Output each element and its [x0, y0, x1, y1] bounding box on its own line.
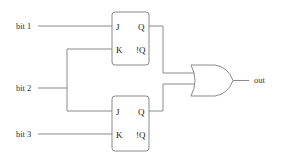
- flipflop-bottom-body: [112, 96, 149, 151]
- input-label-bit1: bit 1: [16, 21, 31, 31]
- pin-k-bottom: K: [116, 130, 123, 140]
- pin-q-bottom: Q: [138, 107, 145, 117]
- input-label-bit2: bit 2: [16, 83, 31, 93]
- flipflop-top-body: [112, 12, 149, 65]
- pin-j-top: J: [116, 22, 120, 32]
- pin-q-top: Q: [138, 22, 145, 32]
- flipflop-bottom: J K Q !Q: [112, 96, 149, 151]
- wire-bottom-q-to-or: [149, 84, 196, 111]
- or-gate-icon: [191, 65, 233, 96]
- pin-k-top: K: [116, 45, 123, 55]
- wire-top-q-to-or: [149, 26, 196, 73]
- pin-nq-top: !Q: [136, 45, 146, 55]
- input-label-bit3: bit 3: [16, 129, 31, 139]
- output-label: out: [254, 75, 266, 85]
- wire-bit2-branch: [67, 49, 112, 111]
- pin-nq-bottom: !Q: [136, 130, 146, 140]
- circuit-diagram: bit 1 bit 2 bit 3 J K Q !Q J K Q !Q out: [0, 0, 282, 159]
- flipflop-top: J K Q !Q: [112, 12, 149, 65]
- pin-j-bottom: J: [116, 107, 120, 117]
